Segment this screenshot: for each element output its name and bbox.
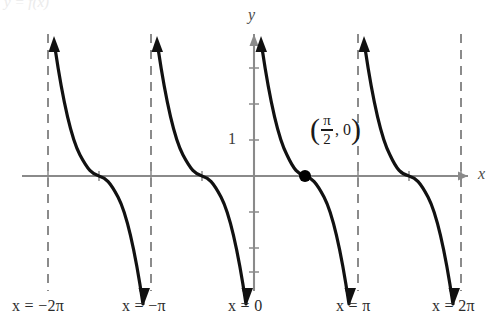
y-axis-arrow bbox=[250, 34, 259, 46]
figure-canvas: y = f(x) bbox=[0, 0, 502, 327]
point-label-rest: , 0 bbox=[335, 121, 351, 139]
asymptote-label-neg2pi: x = −2π bbox=[12, 297, 64, 315]
y-tick-label-one: 1 bbox=[228, 130, 236, 148]
close-paren: ) bbox=[351, 114, 361, 144]
asymptote-label-2pi: x = 2π bbox=[432, 297, 475, 315]
fraction-numerator: π bbox=[321, 113, 333, 128]
asymptote-label-negpi: x = −π bbox=[122, 297, 166, 315]
y-axis-label: y bbox=[248, 6, 255, 24]
x-axis-label: x bbox=[478, 165, 485, 183]
fraction-denominator: 2 bbox=[321, 132, 333, 147]
y-axis bbox=[249, 34, 259, 290]
asymptote-label-zero: x = 0 bbox=[228, 297, 263, 315]
point-marker-pi-over-2 bbox=[299, 170, 311, 182]
point-label-pi-over-2: ( π 2 , 0 ) bbox=[310, 113, 361, 147]
cotangent-graph bbox=[0, 0, 502, 327]
open-paren: ( bbox=[310, 114, 320, 144]
x-axis-arrow bbox=[458, 172, 468, 181]
asymptote-label-pi: x = π bbox=[336, 297, 371, 315]
fraction-pi-over-2: π 2 bbox=[321, 113, 333, 147]
